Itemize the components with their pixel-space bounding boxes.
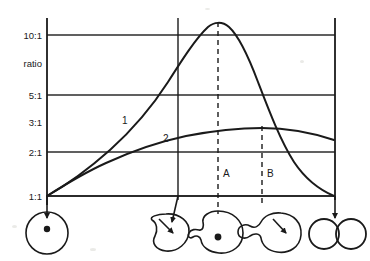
curve-label-1: 1 [122, 115, 128, 126]
nucleus-dot [45, 227, 50, 232]
y-axis-caption: ratio [24, 58, 42, 69]
y-tick-label-5-1: 5:1 [29, 90, 42, 101]
cell-membrane [26, 212, 68, 254]
cell-stage-1 [26, 212, 68, 254]
y-tick-label-3-1: 3:1 [29, 117, 42, 128]
cell-stage-2 [151, 214, 189, 251]
cell-stage-3 [188, 211, 243, 253]
pointer-to-cell-2 [172, 196, 178, 222]
y-tick-label-10-1: 10:1 [24, 30, 43, 41]
nucleus-arrow [273, 219, 286, 233]
y-tick-label-1-1: 1:1 [29, 191, 42, 202]
marker-lines [218, 22, 262, 214]
nucleus-dot [215, 234, 220, 239]
figure-root: 10:1 ratio 5:1 3:1 2:1 1:1 1 2 A B [0, 0, 370, 261]
nucleus-arrow [159, 219, 173, 233]
curve-label-2: 2 [163, 133, 169, 144]
cell-membrane [151, 214, 189, 251]
scan-speck [205, 8, 210, 10]
curve-series-2 [47, 128, 334, 196]
ratio-cell-cycle-chart: 10:1 ratio 5:1 3:1 2:1 1:1 1 2 A B [0, 0, 370, 261]
cell-stage-4 [238, 213, 301, 252]
cell-pointer-lines [47, 196, 335, 222]
cell-membrane [238, 213, 301, 252]
y-tick-label-2-1: 2:1 [29, 147, 42, 158]
scan-speck [300, 60, 304, 63]
scan-speck [90, 248, 96, 251]
scan-speck [12, 225, 17, 228]
daughter-cell-left [309, 219, 339, 249]
daughter-cell-right [336, 219, 366, 249]
cell-membrane [188, 211, 243, 253]
marker-label-b: B [267, 168, 274, 179]
marker-label-a: A [223, 168, 230, 179]
cell-stage-5 [309, 219, 366, 249]
